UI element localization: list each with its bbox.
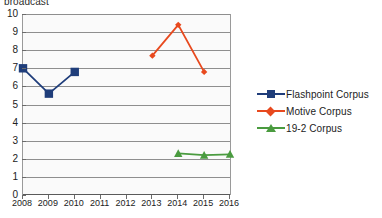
x-axis-tick-label: 2010 xyxy=(64,198,84,208)
legend-key-square-icon xyxy=(256,87,286,101)
y-axis-tick xyxy=(22,32,26,33)
x-axis-tick-label: 2016 xyxy=(219,198,239,208)
series-layer xyxy=(23,14,230,195)
x-axis-tick-label: 2014 xyxy=(167,198,187,208)
y-axis-tick-label: 9 xyxy=(2,27,18,37)
y-axis-tick-label: 5 xyxy=(2,100,18,110)
y-axis-tick-label: 8 xyxy=(2,45,18,55)
series-square xyxy=(19,64,79,98)
x-axis-tick xyxy=(229,195,230,199)
x-axis-tick-labels: 200820092010201120122013201420152016 xyxy=(22,198,229,214)
x-axis-tick-label: 2013 xyxy=(141,198,161,208)
y-axis-tick-label: 1 xyxy=(2,172,18,182)
y-axis-tick-label: 3 xyxy=(2,136,18,146)
legend-key-diamond-icon xyxy=(256,104,286,118)
x-axis-tick xyxy=(203,195,204,199)
y-axis-tick-label: 2 xyxy=(2,154,18,164)
legend-item[interactable]: Flashpoint Corpus xyxy=(256,86,380,102)
x-axis-tick xyxy=(100,195,101,199)
y-axis-tick xyxy=(22,50,26,51)
legend-item-label: Motive Corpus xyxy=(286,106,352,117)
legend-marker-triangle-icon xyxy=(266,124,276,132)
series-diamond xyxy=(149,22,207,75)
series-triangle xyxy=(174,149,234,159)
data-point-marker xyxy=(71,68,79,76)
y-axis-tick xyxy=(22,14,26,15)
x-axis-tick-label: 2015 xyxy=(193,198,213,208)
data-point-marker xyxy=(45,89,53,97)
y-axis-tick xyxy=(22,177,26,178)
plot-region xyxy=(22,14,229,195)
y-axis-tick xyxy=(22,86,26,87)
legend-item[interactable]: Motive Corpus xyxy=(256,103,380,119)
y-axis-tick-label: 10 xyxy=(2,9,18,19)
chart-figure: broadcast 012345678910 20082009201020112… xyxy=(0,0,382,218)
y-axis-tick-labels: 012345678910 xyxy=(0,14,18,195)
y-axis-tick-label: 6 xyxy=(2,81,18,91)
y-axis-tick xyxy=(22,159,26,160)
legend-marker-square-icon xyxy=(267,90,275,98)
legend-item[interactable]: 19-2 Corpus xyxy=(256,120,380,136)
legend-item-label: Flashpoint Corpus xyxy=(286,89,369,100)
x-axis-tick xyxy=(151,195,152,199)
x-axis-tick xyxy=(74,195,75,199)
x-axis-tick-label: 2011 xyxy=(90,198,109,208)
x-axis-tick-label: 2008 xyxy=(12,198,32,208)
series-line xyxy=(152,25,204,72)
x-axis-tick-label: 2009 xyxy=(38,198,58,208)
y-axis-tick xyxy=(22,68,26,69)
y-axis-tick xyxy=(22,141,26,142)
chart-title: broadcast xyxy=(4,0,49,7)
y-axis-tick xyxy=(22,123,26,124)
x-axis-tick xyxy=(22,195,23,199)
x-axis-tick xyxy=(177,195,178,199)
x-axis-tick xyxy=(48,195,49,199)
x-axis-tick-label: 2012 xyxy=(115,198,135,208)
plot-area xyxy=(22,14,231,195)
legend-item-label: 19-2 Corpus xyxy=(286,123,342,134)
legend-marker-diamond-icon xyxy=(266,107,276,117)
y-axis-tick xyxy=(22,105,26,106)
chart-legend: Flashpoint CorpusMotive Corpus19-2 Corpu… xyxy=(256,86,380,137)
x-axis-tick xyxy=(126,195,127,199)
y-axis-tick-label: 7 xyxy=(2,63,18,73)
y-axis-tick-label: 4 xyxy=(2,118,18,128)
legend-key-triangle-icon xyxy=(256,121,286,135)
